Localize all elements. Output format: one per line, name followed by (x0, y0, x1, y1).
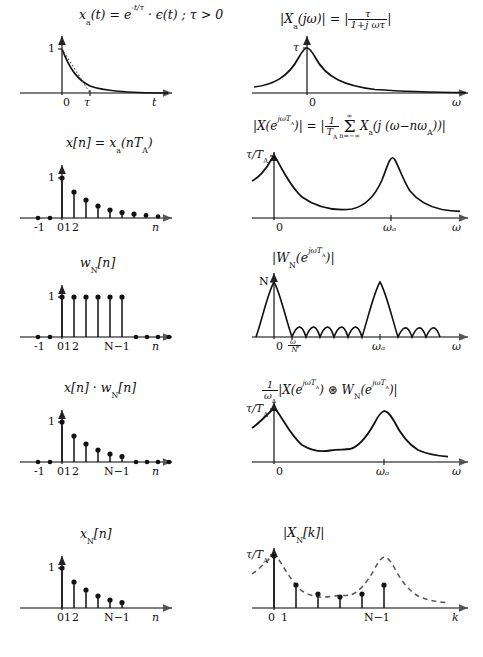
row2-right-equation: |X(ejωTA)| = |1TA∞Σn=−∞Xa(j (ω−nωA))| (253, 113, 446, 140)
row4-left-xtick-1: 1 (64, 466, 71, 477)
eq-part4: )| (389, 383, 398, 397)
eq-exponent: -t/τ (131, 3, 144, 12)
row1-right-xtick-0: 0 (309, 97, 316, 108)
row1-right-plot (252, 36, 468, 95)
row2-right-xtick-0: 0 (276, 222, 283, 233)
eq-part1: |X(e (278, 383, 302, 397)
eq-part3: (e (360, 383, 372, 397)
row4-right-xtick-0: 0 (276, 466, 283, 477)
row4-left-xtick-0: 0 (57, 466, 64, 477)
eq-lhs-rest: (nT (121, 135, 142, 150)
row3-left-plot (20, 285, 172, 339)
eq-lhs-sub: a (86, 18, 91, 27)
row5-right-xtick-0: 0 (268, 612, 275, 623)
row4-right-equation: 1ωA|X(ejωTA) ⊛ WN(ejωTA)| (262, 380, 398, 401)
eq-part1: |W (272, 250, 289, 265)
row4-right-xaxis-label: ω (452, 466, 461, 477)
eq-lhs: |X (280, 11, 293, 26)
eq-lhs-arg: (t) = e (91, 7, 132, 22)
row4-right-plot (252, 402, 468, 465)
eq-part2: ) ⊛ W (319, 383, 354, 397)
eq-tail: | (387, 11, 391, 26)
eq-part5: ))| (433, 119, 446, 133)
eq-part2: (e (296, 250, 308, 265)
eq-lhs: x[n] = x (66, 135, 116, 150)
row1-right-ytick-tau: τ (293, 42, 299, 53)
row2-left-xtick-0: 0 (57, 222, 64, 233)
eq-part4: (j (ω−nω (373, 119, 427, 133)
eq-lhs-sub2: A (142, 146, 148, 155)
row1-left-xaxis-label: t (152, 97, 156, 108)
row2-right-xaxis-label: ω (452, 222, 461, 233)
row5-left-plot (20, 556, 172, 610)
eq-frac-num: τ (348, 9, 387, 19)
row5-right-xaxis-label: k (452, 612, 459, 623)
row1-left-xtick-0: 0 (63, 97, 70, 108)
row3-right-plot (252, 273, 468, 340)
row3-left-ytick-1: 1 (48, 291, 55, 302)
row1-left-plot (20, 36, 172, 96)
row2-left-xtick-neg1: -1 (34, 222, 45, 233)
row4-left-ytick-1: 1 (48, 416, 55, 427)
row3-right-xtick-0: 0 (276, 341, 283, 352)
eq-part3: )| (326, 250, 335, 265)
row1-left-ytick-1: 1 (48, 43, 55, 54)
row1-right-equation: |Xa(jω)| = |τ1+j ωτ| (280, 9, 391, 30)
eq-part1-sup: jωTA (277, 114, 294, 123)
row5-left-xtick-2: 2 (72, 612, 79, 623)
row2-right-plot (252, 152, 468, 221)
eq-part2: [k]| (303, 525, 325, 540)
row5-left-xtick-1: 1 (64, 612, 71, 623)
eq-fraction: 1TA (325, 116, 340, 137)
row5-right-xtick-1: 1 (281, 612, 288, 623)
eq-fraction: τ1+j ωτ (348, 9, 387, 30)
eq-part1: |X (283, 525, 296, 540)
row2-right-ytick-tau-over-ta: τ/TA (246, 149, 268, 160)
eq-part2-sup: jωTA (308, 246, 325, 255)
row1-right-xaxis-label: ω (452, 97, 461, 108)
eq-lhs-tail: ) (148, 135, 153, 150)
eq-part1: |X(e (253, 119, 277, 133)
row2-left-equation: x[n] = xa(nTA) (66, 137, 153, 150)
row4-left-plot (20, 410, 172, 464)
row3-left-xtick-1: 1 (64, 341, 71, 352)
row4-left-xtick-neg1: -1 (34, 466, 45, 477)
row4-left-equation: x[n] · wN[n] (64, 382, 136, 395)
row2-right-xtick-omega-a: ωₐ (383, 222, 396, 233)
row5-right-plot (252, 548, 468, 610)
row5-left-ytick-1: 1 (48, 562, 55, 573)
row1-left-equation: xa(t) = e-t/τ · ϵ(t) ; τ > 0 (79, 9, 223, 22)
row5-left-xaxis-label: n (152, 612, 159, 623)
row2-left-xtick-1: 1 (64, 222, 71, 233)
eq-part2: [n] (118, 380, 136, 395)
row3-right-xtick-omegaA-over-N: ωAN (288, 338, 301, 354)
eq-frac-den: 1+j ωτ (348, 19, 387, 30)
row3-left-xaxis-label: n (152, 341, 159, 352)
row5-right-ytick-tau-over-ta: τ/TA (246, 549, 268, 560)
row5-left-xtick-0: 0 (57, 612, 64, 623)
eq-part1: x[n] · w (64, 380, 111, 395)
row3-left-equation: wN[n] (80, 257, 115, 270)
row2-left-xtick-2: 2 (72, 222, 79, 233)
eq-prefactor: 1ωA (262, 380, 278, 401)
eq-lhs-rest: (jω)| = | (298, 11, 349, 26)
row1-left-xtick-tau: τ (84, 97, 90, 108)
row4-right-ytick-tau-over-ta: τ/TA (246, 403, 268, 414)
eq-rhs: · ϵ(t) ; τ > 0 (144, 7, 223, 22)
row4-left-xtick-nminus1: N−1 (104, 466, 130, 477)
row2-left-xaxis-label: n (152, 222, 159, 233)
row5-right-equation: |XN[k]| (283, 527, 324, 540)
eq-lhs: x (79, 7, 86, 22)
eq-summation: ∞Σn=−∞ (339, 113, 360, 140)
eq-lhs-sub: a (293, 22, 298, 31)
row3-left-xtick-0: 0 (57, 341, 64, 352)
row5-right-xtick-nminus1: N−1 (364, 612, 390, 623)
row4-left-xtick-2: 2 (72, 466, 79, 477)
row5-left-equation: xN[n] (80, 528, 112, 541)
row3-right-xaxis-label: ω (452, 341, 461, 352)
row3-right-ytick-N: N (259, 276, 269, 287)
row2-left-ytick-1: 1 (48, 172, 55, 183)
eq-lhs-sub: a (116, 146, 121, 155)
row3-left-xtick-nminus1: N−1 (104, 341, 130, 352)
row3-left-xtick-neg1: -1 (34, 341, 45, 352)
